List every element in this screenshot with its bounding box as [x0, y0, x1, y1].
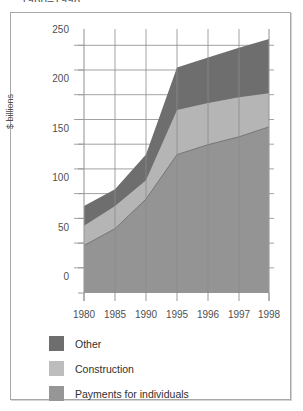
x-tick-1998: 1998	[249, 309, 289, 320]
legend-swatch-other	[49, 336, 64, 351]
page-title: 1980–1998	[21, 0, 81, 2]
y-axis-ticks	[78, 45, 84, 293]
y-tick-100: 100	[35, 173, 69, 183]
x-axis-tick-labels: 1980 1985 1990 1995 1996 1997 1998	[74, 309, 284, 323]
y-axis-tick-labels: 250 200 150 100 50 0	[25, 13, 69, 289]
legend-item-payments: Payments for individuals	[49, 381, 189, 406]
legend-label-payments: Payments for individuals	[75, 388, 189, 400]
y-tick-200: 200	[35, 74, 69, 84]
legend-label-construction: Construction	[75, 363, 134, 375]
y-tick-50: 50	[35, 223, 69, 233]
y-tick-0: 0	[35, 272, 69, 282]
x-axis-ticks	[84, 293, 269, 301]
legend-item-other: Other	[49, 331, 189, 356]
chart-page: 1980–1998 250 200 150 100 50 0 $ billion…	[0, 0, 303, 411]
legend-item-construction: Construction	[49, 356, 189, 381]
chart-frame: 250 200 150 100 50 0 $ billions	[10, 12, 291, 400]
legend-swatch-construction	[49, 361, 64, 376]
y-tick-150: 150	[35, 124, 69, 134]
plot-area	[74, 29, 269, 305]
y-tick-250: 250	[35, 25, 69, 35]
area-chart-svg	[74, 29, 274, 309]
chart-legend: Other Construction Payments for individu…	[49, 331, 189, 406]
legend-label-other: Other	[75, 338, 101, 350]
y-axis-label: $ billions	[5, 94, 15, 129]
legend-swatch-payments	[49, 386, 64, 401]
